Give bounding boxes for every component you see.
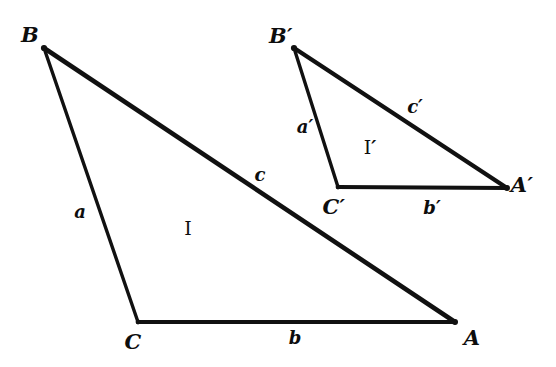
prime-mark-side-a: ′ — [308, 116, 313, 137]
triangle-I-prime-shape — [291, 45, 510, 191]
geometry-figure: B C A a b c I B′ C′ A′ a′ b′ c′ I′ — [0, 0, 556, 367]
side-label-c: c — [255, 166, 266, 184]
prime-mark-side-b: ′ — [436, 197, 441, 218]
side-label-a: a — [74, 203, 86, 221]
side-c-line — [44, 48, 455, 322]
vertex-B-point — [41, 45, 47, 51]
prime-mark-A: ′ — [527, 172, 533, 197]
prime-mark-side-c: ′ — [418, 96, 423, 117]
vertex-label-C-prime: C′ — [323, 196, 346, 217]
vertex-label-A: A — [464, 327, 481, 348]
prime-mark-B: ′ — [287, 23, 293, 48]
side-label-a-prime: a′ — [297, 118, 313, 136]
vertex-label-C: C — [124, 331, 141, 352]
vertex-A-point — [452, 319, 458, 325]
side-a-line — [44, 48, 138, 322]
region-label-I: I — [184, 219, 192, 238]
region-label-I-prime: I′ — [364, 138, 377, 157]
vertex-A-prime-point — [504, 185, 510, 191]
vertex-label-B-prime: B′ — [269, 25, 293, 46]
vertex-label-A-prime: A′ — [511, 174, 533, 195]
side-b-prime-line — [338, 187, 507, 188]
side-label-b-prime: b′ — [423, 199, 440, 217]
vertex-label-B: B — [21, 24, 39, 45]
triangles-canvas — [0, 0, 556, 367]
vertex-C-point — [136, 320, 141, 325]
vertex-C-prime-point — [336, 185, 341, 190]
side-c-prime-line — [294, 48, 507, 188]
side-label-b: b — [289, 329, 302, 347]
prime-mark-region: ′ — [371, 136, 376, 158]
triangle-I-shape — [41, 45, 458, 325]
prime-mark-C: ′ — [340, 194, 346, 219]
side-label-c-prime: c′ — [407, 98, 423, 116]
